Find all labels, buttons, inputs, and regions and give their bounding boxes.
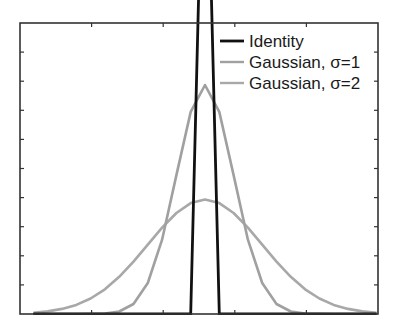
gaussian-sigma2-line [33,200,376,313]
legend-label-gaussian-sigma1: Gaussian, σ=1 [249,53,360,72]
chart-canvas: Identity Gaussian, σ=1 Gaussian, σ=2 [0,0,405,333]
legend-label-gaussian-sigma2: Gaussian, σ=2 [249,74,360,93]
legend-item-gaussian-sigma2: Gaussian, σ=2 [220,74,360,93]
legend-item-gaussian-sigma1: Gaussian, σ=1 [220,53,360,72]
legend: Identity Gaussian, σ=1 Gaussian, σ=2 [220,32,360,93]
series-layer [33,0,376,314]
legend-label-identity: Identity [249,32,304,51]
identity-line [33,0,376,314]
legend-item-identity: Identity [220,32,304,51]
